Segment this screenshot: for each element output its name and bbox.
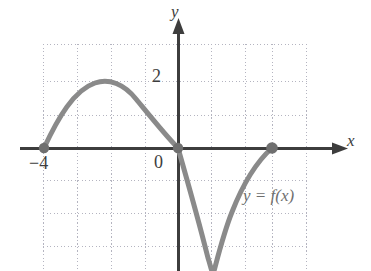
graph-figure: y x 2 0 −4 y = f(x): [0, 0, 371, 271]
x-axis-arrow: [332, 143, 348, 155]
grid-lines: [43, 44, 307, 271]
point-right-root: [266, 142, 278, 154]
origin-label: 0: [154, 152, 163, 173]
curve-equation-label: y = f(x): [243, 186, 294, 206]
y-axis-label: y: [171, 2, 179, 22]
x-axis: [20, 143, 348, 155]
function-curve: [44, 81, 272, 271]
plot-canvas: [0, 0, 371, 271]
x-tick-label-neg4: −4: [29, 153, 48, 174]
y-tick-label-2: 2: [152, 66, 161, 87]
x-axis-label: x: [347, 131, 355, 151]
point-left-root: [39, 143, 49, 153]
point-origin-root: [173, 143, 183, 153]
